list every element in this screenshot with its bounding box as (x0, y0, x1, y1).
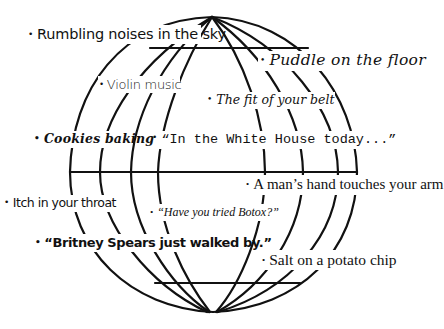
label-white-house-quote: •“In the White House today...” (152, 133, 396, 147)
label-text: “Have you tried Botox?” (157, 205, 279, 219)
label-text: A man’s hand touches your arm (253, 176, 443, 192)
meridian-left-1 (100, 17, 212, 312)
label-text: Puddle on the floor (270, 51, 426, 69)
label-puddle-on-floor: •Puddle on the floor (260, 53, 426, 69)
meridian-right-1 (212, 17, 265, 312)
label-text: Violin music (107, 77, 182, 92)
meridian-left-2 (131, 17, 212, 312)
globe-outline-left (70, 17, 213, 312)
label-salt-potato-chip: •Salt on a potato chip (262, 252, 397, 268)
label-cookies-baking: •Cookies baking (34, 133, 154, 146)
label-text: Salt on a potato chip (269, 251, 396, 268)
bullet-icon: • (260, 56, 266, 65)
label-text: “Britney Spears just walked by.” (44, 235, 271, 250)
label-text: Cookies baking (44, 131, 154, 146)
bullet-icon: • (100, 80, 103, 89)
label-fit-of-belt: •The fit of your belt (207, 94, 335, 107)
bullet-icon: • (28, 30, 33, 39)
bullet-icon: • (4, 198, 9, 207)
bullet-icon: • (152, 134, 157, 143)
label-britney-quote: •“Britney Spears just walked by.” (35, 236, 272, 249)
label-text: Rumbling noises in the sky (37, 26, 226, 42)
label-text: “In the White House today...” (161, 132, 396, 147)
bullet-icon: • (246, 180, 249, 189)
bullet-icon: • (150, 208, 153, 217)
label-text: Itch in your throat (13, 195, 116, 210)
label-violin-music: •Violin music (100, 78, 181, 91)
label-itch-in-throat: •Itch in your throat (4, 197, 116, 210)
bullet-icon: • (207, 95, 212, 104)
label-mans-hand: •A man’s hand touches your arm (246, 177, 444, 192)
label-botox-quote: •“Have you tried Botox?” (150, 206, 279, 218)
label-rumbling-noises: •Rumbling noises in the sky (28, 27, 226, 42)
bullet-icon: • (262, 256, 265, 265)
bullet-icon: • (34, 134, 40, 143)
bullet-icon: • (35, 238, 40, 247)
label-text: The fit of your belt (216, 92, 334, 107)
